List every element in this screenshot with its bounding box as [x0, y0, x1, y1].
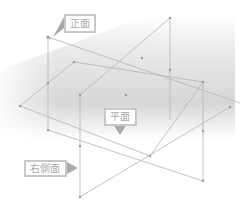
right-callout-pointer: [67, 162, 78, 174]
reference-planes-diagram: [0, 0, 249, 210]
front-callout-pointer: [53, 17, 64, 37]
right-plane-label: 右側面: [24, 160, 67, 177]
front-plane-label: 正面: [64, 14, 96, 33]
front-origin-tag: Top: [46, 36, 51, 40]
top-plane-label: 平面: [104, 108, 137, 126]
